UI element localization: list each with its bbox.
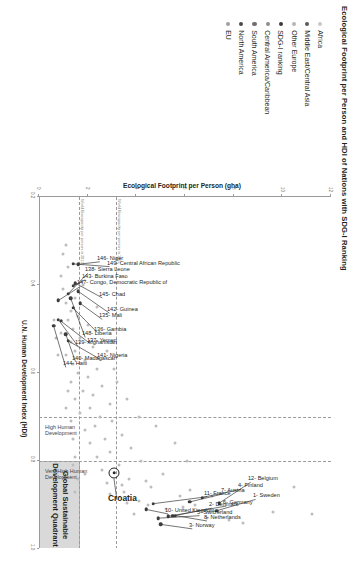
data-point[interactable]	[59, 332, 62, 335]
data-point[interactable]	[125, 398, 128, 401]
legend-item[interactable]: Central America/Caribbean	[261, 22, 274, 114]
data-point[interactable]	[74, 490, 77, 493]
data-point[interactable]	[162, 473, 165, 476]
x-axis-tick-label: 0.4	[31, 280, 36, 286]
data-point[interactable]	[76, 314, 79, 317]
data-point[interactable]	[108, 451, 111, 454]
data-point-labeled[interactable]	[159, 523, 162, 526]
data-point[interactable]	[103, 438, 106, 441]
data-point[interactable]	[147, 504, 150, 507]
data-point-labeled[interactable]	[57, 299, 60, 302]
data-point[interactable]	[69, 310, 72, 313]
data-point[interactable]	[69, 380, 72, 383]
data-point[interactable]	[310, 512, 313, 515]
data-point-labeled[interactable]	[152, 502, 155, 505]
data-point[interactable]	[84, 429, 87, 432]
data-point[interactable]	[120, 433, 123, 436]
data-point[interactable]	[89, 442, 92, 445]
data-point-labeled[interactable]	[71, 284, 74, 287]
data-point[interactable]	[72, 328, 75, 331]
data-point[interactable]	[91, 345, 94, 348]
data-point[interactable]	[174, 442, 177, 445]
data-point[interactable]	[74, 398, 77, 401]
data-point[interactable]	[96, 306, 99, 309]
data-point[interactable]	[96, 455, 99, 458]
legend-item[interactable]: North America	[235, 22, 248, 114]
legend-item[interactable]: Africa	[314, 22, 327, 114]
data-point[interactable]	[64, 301, 67, 304]
data-point[interactable]	[140, 460, 143, 463]
data-point[interactable]	[64, 407, 67, 410]
data-point[interactable]	[115, 380, 118, 383]
data-point-labeled[interactable]	[188, 500, 191, 503]
data-point[interactable]	[96, 367, 99, 370]
data-point[interactable]	[118, 464, 121, 467]
legend-item[interactable]: Other Europe	[287, 22, 300, 114]
data-point[interactable]	[130, 446, 133, 449]
data-point[interactable]	[74, 297, 77, 300]
data-point[interactable]	[128, 477, 131, 480]
data-point[interactable]	[72, 464, 75, 467]
data-point[interactable]	[91, 394, 94, 397]
data-point[interactable]	[137, 416, 140, 419]
data-point-labeled[interactable]	[157, 516, 160, 519]
data-point[interactable]	[72, 438, 75, 441]
data-point[interactable]	[62, 253, 65, 256]
data-point-labeled[interactable]	[64, 333, 67, 336]
data-point[interactable]	[108, 402, 111, 405]
data-point[interactable]	[89, 407, 92, 410]
data-point[interactable]	[242, 521, 245, 524]
data-point[interactable]	[101, 385, 104, 388]
data-point-labeled[interactable]	[71, 306, 74, 309]
data-point-labeled[interactable]	[200, 496, 203, 499]
data-point[interactable]	[154, 424, 157, 427]
data-point[interactable]	[132, 512, 135, 515]
data-point[interactable]	[179, 495, 182, 498]
data-point[interactable]	[106, 482, 109, 485]
data-point[interactable]	[74, 455, 77, 458]
data-point[interactable]	[67, 389, 70, 392]
data-point[interactable]	[55, 336, 58, 339]
data-point[interactable]	[67, 319, 70, 322]
data-point[interactable]	[149, 486, 152, 489]
data-point[interactable]	[64, 244, 67, 247]
data-point[interactable]	[111, 420, 114, 423]
data-point-labeled[interactable]	[174, 514, 177, 517]
data-point[interactable]	[93, 424, 96, 427]
data-point-labeled[interactable]	[79, 302, 82, 305]
legend-item[interactable]: South America	[248, 22, 261, 114]
data-point[interactable]	[98, 416, 101, 419]
data-point-labeled[interactable]	[144, 508, 147, 511]
legend-item[interactable]: Middle East/Central Asia	[301, 22, 314, 114]
data-point[interactable]	[76, 372, 79, 375]
data-point[interactable]	[59, 275, 62, 278]
data-point-labeled[interactable]	[52, 324, 55, 327]
data-point[interactable]	[101, 468, 104, 471]
data-point[interactable]	[52, 319, 55, 322]
data-point[interactable]	[79, 411, 82, 414]
data-point[interactable]	[137, 499, 140, 502]
data-point[interactable]	[62, 288, 65, 291]
legend-item-label: EU	[225, 30, 232, 40]
data-point-labeled[interactable]	[166, 515, 169, 518]
data-point-labeled[interactable]	[67, 292, 70, 295]
data-point[interactable]	[271, 510, 274, 513]
data-point[interactable]	[120, 484, 123, 487]
data-point[interactable]	[145, 479, 148, 482]
data-point[interactable]	[86, 376, 89, 379]
data-point[interactable]	[113, 367, 116, 370]
data-point[interactable]	[81, 389, 84, 392]
data-point[interactable]	[69, 420, 72, 423]
legend-item[interactable]: EU	[222, 22, 235, 114]
data-point-labeled[interactable]	[69, 296, 72, 299]
data-point[interactable]	[67, 266, 70, 269]
data-point[interactable]	[186, 460, 189, 463]
data-point[interactable]	[57, 354, 60, 357]
data-point[interactable]	[64, 354, 67, 357]
data-point[interactable]	[188, 488, 191, 491]
data-point-labeled[interactable]	[71, 262, 74, 265]
legend-item[interactable]: SDG-I ranking	[274, 22, 287, 114]
data-point[interactable]	[293, 486, 296, 489]
data-point[interactable]	[74, 350, 77, 353]
data-point[interactable]	[86, 323, 89, 326]
